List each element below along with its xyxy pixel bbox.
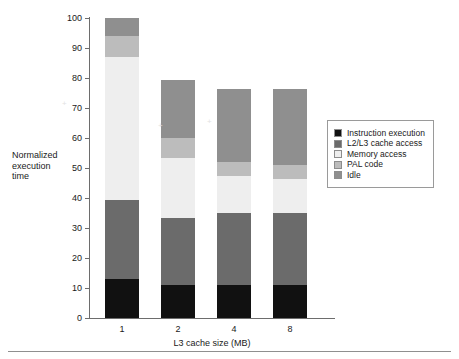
legend-label: Memory access: [347, 150, 407, 159]
bar-segment: [273, 179, 307, 214]
x-tick-label: 8: [270, 325, 310, 334]
legend-item-4: Idle: [334, 171, 425, 180]
y-tick: [85, 288, 89, 289]
y-axis-title-line: execution: [12, 161, 82, 172]
bar-1mb: [105, 18, 139, 318]
legend-swatch-icon: [334, 150, 342, 158]
legend-item-0: Instruction execution: [334, 129, 425, 138]
x-tick-label: 1: [102, 325, 142, 334]
bar-segment: [161, 138, 195, 158]
legend-label: Instruction execution: [347, 129, 425, 138]
legend-swatch-icon: [334, 171, 342, 179]
legend: Instruction executionL2/L3 cache accessM…: [327, 120, 434, 188]
y-tick: [85, 48, 89, 49]
y-tick-label: 70: [56, 104, 82, 113]
artifact-mark-1: +: [158, 122, 163, 130]
x-axis-line: [89, 318, 335, 319]
bar-segment: [217, 285, 251, 318]
bar-segment: [161, 285, 195, 318]
y-tick-label: 0: [56, 314, 82, 323]
y-tick-label: 80: [56, 74, 82, 83]
y-tick: [85, 18, 89, 19]
y-tick: [85, 318, 89, 319]
y-tick: [85, 258, 89, 259]
bar-8mb: [273, 89, 307, 319]
y-axis-title-line: time: [12, 171, 82, 182]
y-tick-label: 60: [56, 134, 82, 143]
legend-swatch-icon: [334, 161, 342, 169]
y-tick-label: 90: [56, 44, 82, 53]
y-tick-label: 40: [56, 194, 82, 203]
bar-segment: [273, 165, 307, 179]
legend-item-3: PAL code: [334, 160, 425, 169]
bar-segment: [217, 213, 251, 285]
bar-segment: [217, 176, 251, 214]
legend-label: PAL code: [347, 160, 383, 169]
y-tick-label: 20: [56, 254, 82, 263]
y-tick: [85, 108, 89, 109]
bar-segment: [161, 218, 195, 286]
y-axis-line: [89, 17, 90, 319]
bar-segment: [105, 200, 139, 280]
legend-label: L2/L3 cache access: [347, 139, 422, 148]
bar-segment: [273, 285, 307, 318]
bar-segment: [161, 158, 195, 218]
bar-segment: [161, 80, 195, 139]
x-axis-title: L3 cache size (MB): [89, 339, 335, 348]
y-tick: [85, 78, 89, 79]
y-tick: [85, 228, 89, 229]
bar-segment: [217, 89, 251, 163]
y-tick-label: 10: [56, 284, 82, 293]
y-axis-title-line: Normalized: [12, 150, 82, 161]
y-tick: [85, 198, 89, 199]
x-tick-label: 4: [214, 325, 254, 334]
bar-2mb: [161, 80, 195, 319]
legend-item-1: L2/L3 cache access: [334, 139, 425, 148]
x-tick-label: 2: [158, 325, 198, 334]
y-tick-label: 100: [56, 14, 82, 23]
artifact-mark-3: +: [62, 100, 67, 108]
legend-label: Idle: [347, 171, 361, 180]
bar-segment: [105, 57, 139, 200]
page-divider-rule: [8, 351, 451, 352]
bar-segment: [105, 36, 139, 57]
artifact-mark-2: +: [207, 118, 212, 126]
bar-segment: [273, 89, 307, 166]
bar-segment: [273, 213, 307, 285]
legend-swatch-icon: [334, 140, 342, 148]
y-tick: [85, 168, 89, 169]
figure: 0102030405060708090100 1248 Normalizedex…: [0, 0, 459, 359]
legend-swatch-icon: [334, 129, 342, 137]
bar-4mb: [217, 89, 251, 319]
y-tick-label: 30: [56, 224, 82, 233]
bar-segment: [105, 279, 139, 318]
bar-segment: [217, 162, 251, 176]
bar-segment: [105, 18, 139, 36]
y-tick: [85, 138, 89, 139]
y-axis-title: Normalizedexecutiontime: [12, 150, 82, 182]
legend-item-2: Memory access: [334, 150, 425, 159]
